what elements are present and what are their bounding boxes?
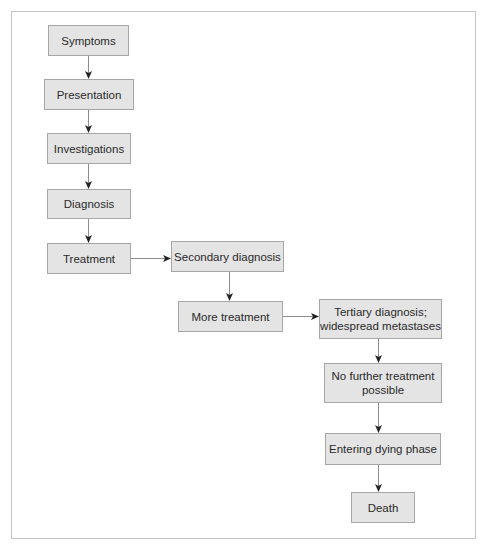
node-tertiary-diagnosis: Tertiary diagnosis; widespread metastase… xyxy=(319,299,442,339)
node-treatment: Treatment xyxy=(47,243,131,274)
node-presentation: Presentation xyxy=(44,79,134,110)
node-death: Death xyxy=(351,492,415,523)
node-more-treatment: More treatment xyxy=(178,301,283,332)
node-entering-dying-phase: Entering dying phase xyxy=(325,433,441,465)
node-symptoms: Symptoms xyxy=(48,25,129,56)
node-diagnosis: Diagnosis xyxy=(47,189,131,219)
node-investigations: Investigations xyxy=(47,133,131,164)
node-no-further-treatment: No further treatment possible xyxy=(324,363,442,403)
node-secondary-diagnosis: Secondary diagnosis xyxy=(171,241,284,272)
